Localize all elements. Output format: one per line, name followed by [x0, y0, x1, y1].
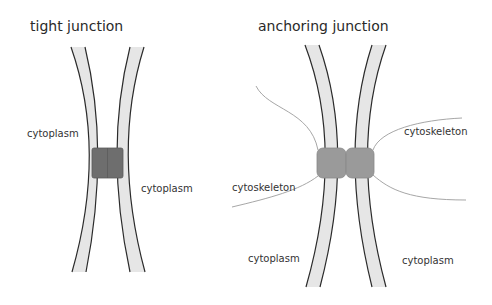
- tight-junction-diagram: [71, 47, 145, 272]
- cytoskeleton-filament-lower-right: [373, 175, 466, 200]
- anchoring-junction-cytoskeleton-right-label: cytoskeleton: [404, 126, 468, 137]
- tight-junction-cytoplasm-left-label: cytoplasm: [27, 128, 79, 139]
- anchoring-protein-block-right: [346, 148, 374, 178]
- anchoring-junction-cytoplasm-right-label: cytoplasm: [402, 255, 454, 266]
- anchoring-junction-diagram: [232, 45, 466, 287]
- anchoring-junction-cytoskeleton-left-label: cytoskeleton: [232, 182, 296, 193]
- tight-junction-title: tight junction: [30, 18, 123, 34]
- anchoring-junction-title: anchoring junction: [258, 18, 389, 34]
- anchoring-protein-block-left: [317, 148, 346, 178]
- tight-junction-cytoplasm-right-label: cytoplasm: [141, 183, 193, 194]
- cytoskeleton-filament-upper-left: [256, 86, 318, 150]
- anchoring-junction-cytoplasm-left-label: cytoplasm: [248, 253, 300, 264]
